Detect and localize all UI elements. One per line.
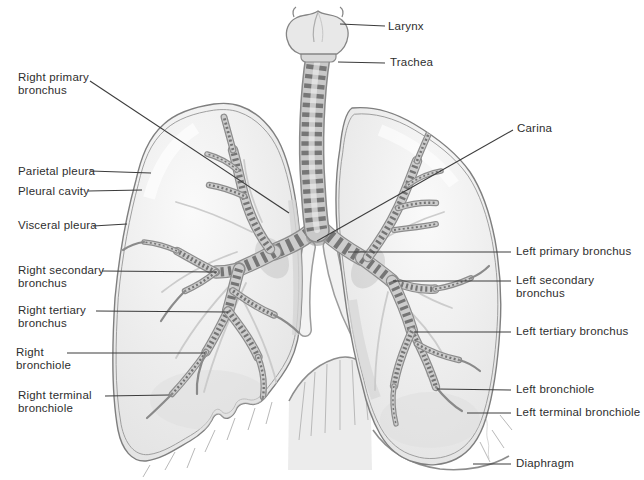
label-visceral-pleura: Visceral pleura [18, 219, 97, 232]
label-right-secondary-bronchus: Right secondary bronchus [18, 264, 104, 290]
label-larynx: Larynx [388, 20, 424, 33]
label-left-bronchiole: Left bronchiole [516, 383, 594, 396]
terminal-bronchiole-tip [429, 115, 440, 133]
label-left-tertiary-bronchus: Left tertiary bronchus [516, 325, 628, 338]
label-right-tertiary-bronchus: Right tertiary bronchus [18, 304, 86, 330]
leader-trachea [338, 62, 385, 63]
label-left-secondary-bronchus: Left secondary bronchus [516, 274, 594, 300]
thyroid-cartilage [286, 11, 348, 54]
label-right-primary-bronchus: Right primary bronchus [18, 71, 89, 97]
leader-visceral-pleura [93, 224, 127, 226]
label-parietal-pleura: Parietal pleura [18, 165, 95, 178]
label-left-primary-bronchus: Left primary bronchus [516, 245, 631, 258]
respiratory-system-diagram: Larynx Trachea Carina Right primary bron… [0, 0, 644, 480]
larynx-shape [286, 7, 348, 62]
label-left-terminal-bronchiole: Left terminal bronchiole [516, 406, 640, 419]
label-right-bronchiole: Right bronchiole [16, 346, 71, 372]
label-pleural-cavity: Pleural cavity [18, 185, 89, 198]
trachea-shape [312, 56, 318, 230]
label-carina: Carina [517, 122, 552, 135]
label-diaphragm: Diaphragm [516, 457, 574, 470]
label-right-terminal-bronchiole: Right terminal bronchiole [18, 389, 92, 415]
label-trachea: Trachea [390, 56, 433, 69]
artist-signature [486, 418, 489, 459]
